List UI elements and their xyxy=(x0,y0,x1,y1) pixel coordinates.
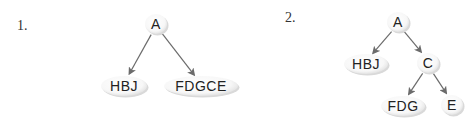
tree-diagrams: AHBJFDGCE AHBJCFDGE xyxy=(0,0,475,125)
diagram-2: AHBJCFDGE xyxy=(344,12,465,118)
node-hbj: HBJ xyxy=(101,76,149,98)
edge-a-c xyxy=(404,32,421,52)
node-label: FDG xyxy=(387,98,418,114)
node-e: E xyxy=(441,95,465,117)
diagram-1: AHBJFDGCE xyxy=(101,14,240,98)
edge-a-hbj xyxy=(373,32,391,53)
edge-c-e xyxy=(433,73,446,92)
node-label: A xyxy=(393,14,403,30)
node-hbj: HBJ xyxy=(344,54,390,76)
node-c: C xyxy=(417,53,441,75)
node-fdgce: FDGCE xyxy=(164,76,240,98)
node-a: A xyxy=(387,12,411,34)
node-label: C xyxy=(423,55,434,71)
node-label: FDGCE xyxy=(175,78,227,94)
node-label: A xyxy=(151,16,161,32)
edge-a-hbj xyxy=(130,35,152,74)
node-fdg: FDG xyxy=(381,96,427,118)
edge-c-fdg xyxy=(409,73,423,94)
node-label: E xyxy=(447,97,457,113)
node-a: A xyxy=(145,14,169,36)
edge-a-fdgce xyxy=(162,34,194,75)
node-label: HBJ xyxy=(110,78,138,94)
node-label: HBJ xyxy=(352,56,380,72)
